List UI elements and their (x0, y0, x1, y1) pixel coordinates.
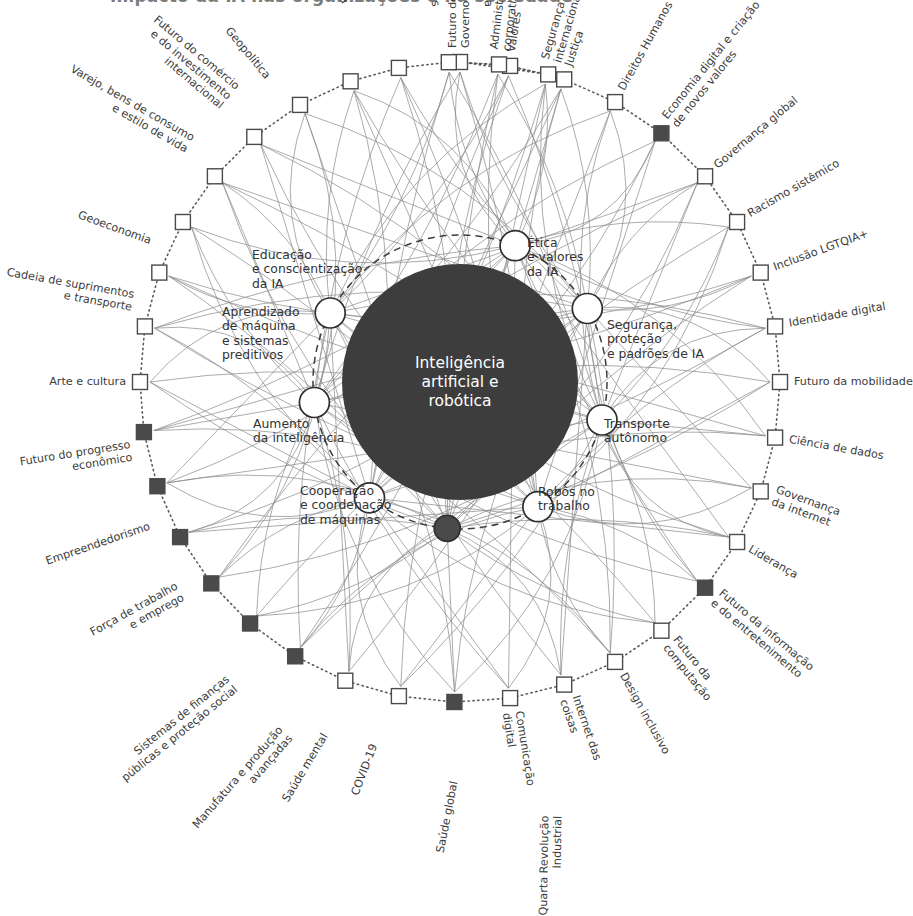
inner-node[interactable] (315, 298, 345, 328)
outer-node[interactable] (753, 484, 768, 499)
outer-node[interactable] (492, 57, 507, 72)
outer-node[interactable] (753, 265, 768, 280)
outer-node-label: Arte e cultura (49, 376, 126, 389)
outer-node[interactable] (133, 375, 148, 390)
outer-node[interactable] (152, 265, 167, 280)
outer-node[interactable] (654, 623, 669, 638)
outer-node[interactable] (204, 576, 219, 591)
outer-node-label: Quarta Revolução Industrial (538, 816, 565, 916)
outer-node[interactable] (698, 580, 713, 595)
outer-node[interactable] (288, 649, 303, 664)
inner-node[interactable] (500, 231, 530, 261)
outer-node[interactable] (441, 55, 456, 70)
outer-node[interactable] (654, 126, 669, 141)
hub-label: Inteligência artificial e robótica (360, 354, 560, 411)
outer-node[interactable] (608, 654, 623, 669)
outer-node-label: Futuro da mobilidade (794, 376, 913, 389)
inner-node-label: Ética e valores da IA (527, 236, 583, 279)
outer-node[interactable] (730, 535, 745, 550)
outer-node[interactable] (698, 169, 713, 184)
inner-node[interactable] (299, 388, 329, 418)
outer-node[interactable] (150, 479, 165, 494)
outer-node[interactable] (137, 319, 152, 334)
outer-node[interactable] (175, 215, 190, 230)
outer-node[interactable] (243, 616, 258, 631)
outer-node[interactable] (343, 74, 358, 89)
outer-node[interactable] (207, 169, 222, 184)
inner-node-label: Aprendizado de máquina e sistemas predit… (222, 305, 300, 363)
inner-node-label: Educação e conscientização da IA (252, 248, 362, 291)
outer-node[interactable] (557, 677, 572, 692)
outer-node[interactable] (247, 129, 262, 144)
outer-node[interactable] (768, 430, 783, 445)
outer-node[interactable] (136, 425, 151, 440)
inner-node-label: Robôs no trabalho (538, 485, 595, 514)
outer-node[interactable] (768, 319, 783, 334)
outer-node[interactable] (173, 530, 188, 545)
outer-node[interactable] (608, 95, 623, 110)
outer-node-label: Futuro do Governo (447, 0, 472, 48)
inner-node-label: Aumento da inteligência (253, 417, 344, 446)
outer-node[interactable] (773, 375, 788, 390)
inner-node[interactable] (434, 515, 460, 541)
outer-node[interactable] (503, 691, 518, 706)
outer-node[interactable] (293, 97, 308, 112)
outer-node[interactable] (391, 689, 406, 704)
inner-node-label: Transporte autônomo (604, 417, 670, 446)
outer-node[interactable] (391, 60, 406, 75)
outer-node[interactable] (730, 215, 745, 230)
inner-node-label: Cooperação e coordenação de máquinas (300, 484, 391, 527)
outer-node[interactable] (557, 72, 572, 87)
inner-node[interactable] (572, 294, 602, 324)
outer-node[interactable] (541, 67, 556, 82)
inner-node-label: Segurança, proteção e padrões de IA (607, 318, 704, 361)
outer-node[interactable] (338, 673, 353, 688)
outer-node[interactable] (447, 695, 462, 710)
